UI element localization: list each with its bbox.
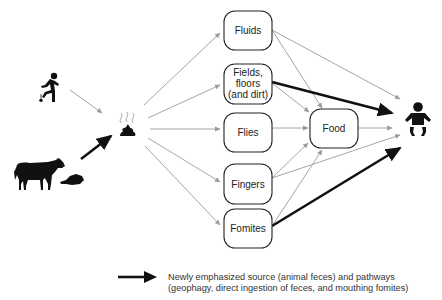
edge-fluids-to-child (272, 30, 400, 99)
edge-feces-to-fields (148, 85, 220, 118)
pathway-box-fingers: Fingers (224, 164, 272, 204)
legend-line-1: Newly emphasized source (animal feces) a… (168, 272, 408, 283)
pathway-label-fields-2: floors (236, 78, 260, 89)
edge-feces-to-fluids (144, 33, 220, 105)
squatting-person-icon (39, 73, 59, 102)
baby-icon (405, 102, 431, 136)
legend-line-2: (geophagy, direct ingestion of feces, an… (168, 283, 408, 294)
cow-icon (14, 158, 65, 190)
steaming-feces-icon (120, 112, 135, 136)
legend-arrow (118, 271, 157, 283)
pathway-label-fields-3: (and dirt) (228, 89, 268, 100)
edge-human-to-feces (70, 90, 102, 113)
pathway-label-fomites: Fomites (230, 223, 266, 234)
food-box: Food (310, 109, 358, 148)
edge-fluids-to-food (272, 30, 322, 108)
pathway-label-fingers: Fingers (231, 179, 264, 190)
pathway-box-fomites: Fomites (224, 209, 272, 248)
fecal-oral-transmission-diagram: Fluids Fields, floors (and dirt) Flies F… (0, 0, 442, 300)
pathway-label-fluids: Fluids (235, 25, 262, 36)
pathway-label-flies: Flies (237, 127, 258, 138)
pathway-box-fluids: Fluids (224, 11, 272, 50)
pathway-label-fields-1: Fields, (233, 67, 262, 78)
edge-animal-to-feces-emphasized (81, 136, 111, 159)
edge-feces-to-fomites (145, 146, 220, 225)
dung-patty-icon (60, 174, 84, 185)
food-label: Food (323, 123, 346, 134)
edge-fingers-to-food (272, 143, 308, 178)
edge-fomites-to-food (272, 150, 322, 226)
pathway-box-fields: Fields, floors (and dirt) (224, 64, 272, 104)
pathway-box-flies: Flies (224, 113, 272, 152)
legend: Newly emphasized source (animal feces) a… (168, 272, 408, 294)
